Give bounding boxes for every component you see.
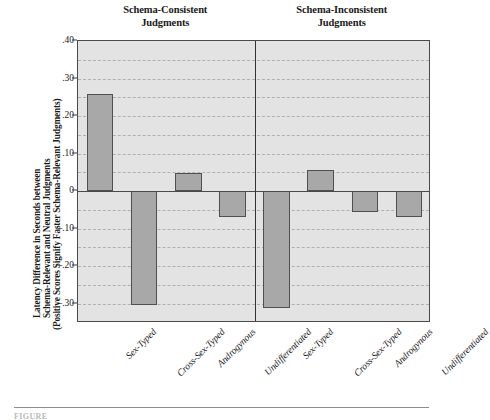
y-axis-tick-label: 0 [44, 185, 74, 195]
panel-title-schema-consistent: Schema-Consistent Judgments [77, 4, 254, 38]
y-axis-tick-label: –.20 [44, 260, 74, 270]
x-axis-label: Cross-Sex-Typed [175, 326, 227, 378]
bar [87, 94, 113, 191]
gridline [78, 172, 429, 173]
bar [175, 173, 201, 191]
y-axis-tick-labels: .40.30.20.100–.10–.20–.30 [44, 40, 74, 322]
gridline [78, 97, 429, 98]
panel-title-line-2: Judgments [77, 17, 254, 30]
x-axis-label: Cross-Sex-Typed [351, 326, 403, 378]
y-axis-tick-label: –.10 [44, 223, 74, 233]
bar [263, 191, 289, 308]
y-axis-tick-label: .30 [44, 73, 74, 83]
x-axis-category-labels: Sex-TypedCross-Sex-TypedAndrogynousUndif… [77, 322, 430, 402]
y-axis-tick-label: .10 [44, 148, 74, 158]
footer-divider [14, 407, 429, 408]
y-axis-tick-label: .40 [44, 35, 74, 45]
x-axis-label: Sex-Typed [123, 326, 158, 361]
panel-divider [255, 41, 256, 321]
gridline [78, 154, 429, 155]
figure-caption: FIGURE [14, 412, 48, 420]
y-axis-tick-label: .20 [44, 110, 74, 120]
panel-titles: Schema-Consistent Judgments Schema-Incon… [77, 4, 430, 38]
y-axis-title-line-1: Latency Difference in Seconds between [32, 169, 42, 318]
panel-title-line-2: Judgments [254, 17, 431, 30]
plot-area [77, 40, 430, 322]
bar [219, 191, 245, 217]
bar [131, 191, 157, 305]
bar [307, 170, 333, 191]
y-axis-tick-label: –.30 [44, 298, 74, 308]
panel-title-line-1: Schema-Consistent [77, 4, 254, 17]
y-axis-title: Latency Difference in Seconds between Sc… [0, 0, 46, 330]
panel-title-schema-inconsistent: Schema-Inconsistent Judgments [254, 4, 431, 38]
gridline [78, 79, 429, 80]
gridline [78, 135, 429, 136]
gridline [78, 116, 429, 117]
gridline [78, 60, 429, 61]
x-axis-label: Undifferentiated [439, 326, 490, 377]
bar [396, 191, 422, 217]
zero-line [78, 191, 429, 192]
bar [352, 191, 378, 212]
panel-title-line-1: Schema-Inconsistent [254, 4, 431, 17]
